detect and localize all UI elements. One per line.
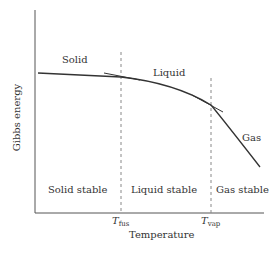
liquid-curve-label: Liquid (153, 67, 185, 78)
y-axis-label: Gibbs energy (11, 78, 22, 158)
tick-t-fus: Tfus (112, 215, 129, 228)
tick-symbol: T (201, 215, 208, 226)
solid-stable-region-label: Solid stable (48, 184, 107, 195)
x-axis-label: Temperature (129, 229, 195, 240)
tick-subscript: fus (119, 220, 130, 228)
gas-stable-region-label: Gas stable (216, 184, 269, 195)
tick-symbol: T (112, 215, 119, 226)
tick-t-vap: Tvap (201, 215, 220, 228)
gas-curve-label: Gas (242, 132, 261, 143)
gibbs-diagram-canvas (0, 0, 279, 254)
solid-curve-label: Solid (62, 54, 88, 65)
tick-subscript: vap (208, 220, 221, 228)
vaporization-tangent (192, 95, 223, 112)
liquid-curve (121, 77, 211, 105)
liquid-stable-region-label: Liquid stable (131, 184, 197, 195)
